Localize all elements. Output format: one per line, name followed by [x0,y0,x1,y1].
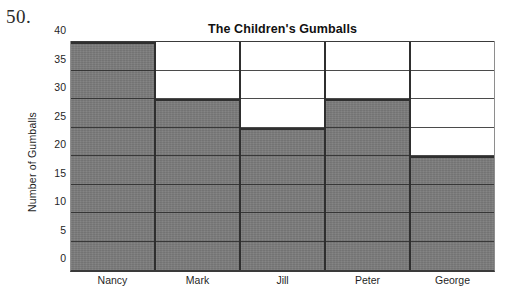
y-tick-label: 20 [54,138,66,150]
bar-column: Peter [326,42,411,270]
chart-title: The Children's Gumballs [70,22,495,36]
x-tick-label: Peter [326,274,409,286]
y-tick-label: 5 [60,224,66,236]
plot-area: 0510152025303540 NancyMarkJillPeterGeorg… [70,41,495,272]
bar-columns: NancyMarkJillPeterGeorge [71,42,494,270]
y-axis-label: Number of Gumballs [26,67,38,257]
bar-nancy [71,42,154,270]
y-tick-label: 40 [54,24,66,36]
y-tick-label: 0 [60,252,66,264]
x-tick-label: Mark [156,274,239,286]
bar-george [411,156,494,270]
bar-jill [241,128,324,271]
y-tick-label: 15 [54,167,66,179]
x-tick-label: Nancy [71,274,154,286]
bar-column: George [411,42,494,270]
y-tick-label: 35 [54,53,66,65]
bar-chart-figure: The Children's Gumballs Number of Gumbal… [0,0,514,295]
bar-column: Nancy [71,42,156,270]
bar-peter [326,99,409,270]
x-tick-label: George [411,274,494,286]
bar-column: Mark [156,42,241,270]
bar-mark [156,99,239,270]
x-tick-label: Jill [241,274,324,286]
y-tick-label: 25 [54,110,66,122]
y-tick-label: 30 [54,81,66,93]
y-tick-label: 10 [54,195,66,207]
bar-column: Jill [241,42,326,270]
